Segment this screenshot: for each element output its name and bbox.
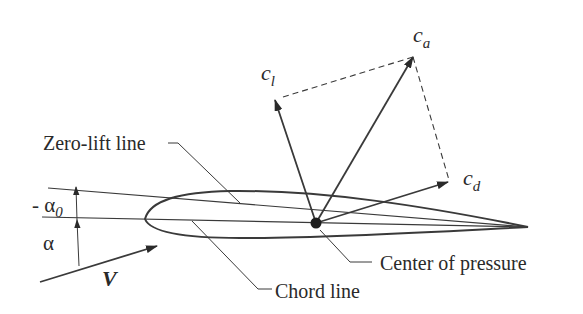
- lift-coeff-label: cl: [261, 60, 275, 89]
- drag-coeff-label: cd: [463, 165, 481, 194]
- chord-line-label: Chord line: [275, 280, 360, 302]
- center-of-pressure-dot: [311, 218, 322, 229]
- airfoil-diagram: Zero-lift line Chord line Center of pres…: [0, 0, 583, 314]
- center-of-pressure-label: Center of pressure: [380, 252, 527, 275]
- alpha-arc-arrow: [77, 220, 79, 266]
- resultant-drag-dashed: [413, 57, 449, 180]
- zero-lift-leader: [168, 143, 240, 203]
- chord-leader: [192, 221, 272, 289]
- alpha-label: α: [43, 231, 54, 255]
- velocity-label: V: [102, 266, 119, 291]
- zero-lift-line: [48, 188, 528, 227]
- airfoil-outline: [145, 191, 528, 238]
- zero-lift-angle-label: - α0: [32, 193, 63, 220]
- zero-lift-label: Zero-lift line: [43, 132, 146, 154]
- resultant-coeff-label: ca: [413, 22, 430, 51]
- alpha0-arc-arrow: [76, 187, 77, 220]
- chord-line: [42, 217, 528, 227]
- velocity-arrow: [40, 246, 157, 282]
- lift-vector: [275, 100, 316, 223]
